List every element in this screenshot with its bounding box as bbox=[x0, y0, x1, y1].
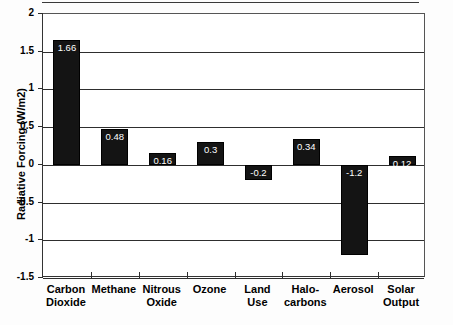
y-tick-mark bbox=[38, 239, 43, 240]
y-tick-label: 0 bbox=[4, 159, 34, 169]
x-axis-category-labels: CarbonDioxideMethaneNitrousOxideOzoneLan… bbox=[42, 283, 425, 323]
y-tick-mark bbox=[38, 202, 43, 203]
y-tick-mark bbox=[38, 277, 43, 278]
y-tick-mark bbox=[38, 13, 43, 14]
x-axis-category-label-line: Oxide bbox=[138, 296, 186, 309]
x-axis-category-label-line: Nitrous bbox=[138, 283, 186, 296]
x-axis-category-label-line: Dioxide bbox=[42, 296, 90, 309]
y-tick-label: 1 bbox=[4, 83, 34, 93]
y-tick-label: -0.5 bbox=[4, 197, 34, 207]
x-axis-category-label: Aerosol bbox=[329, 283, 377, 296]
x-axis-category-label-line: Carbon bbox=[42, 283, 90, 296]
y-tick-mark bbox=[38, 51, 43, 52]
y-tick-label: -1.5 bbox=[4, 272, 34, 282]
radiative-forcing-bar-chart: Radiative Forcing (W/m2) 1.660.480.160.3… bbox=[0, 0, 453, 325]
x-axis-category-label-line: Land bbox=[234, 283, 282, 296]
x-axis-category-label: SolarOutput bbox=[377, 283, 425, 309]
x-axis-category-label-line: Output bbox=[377, 296, 425, 309]
x-axis-category-label-line: Ozone bbox=[186, 283, 234, 296]
x-axis-category-label: CarbonDioxide bbox=[42, 283, 90, 309]
y-tick-label: -1 bbox=[4, 234, 34, 244]
x-axis-category-label: NitrousOxide bbox=[138, 283, 186, 309]
y-axis-ticks: 21.510.50-0.5-1-1.5 bbox=[0, 0, 453, 325]
x-axis-category-label-line: Halo- bbox=[281, 283, 329, 296]
y-tick-mark bbox=[38, 164, 43, 165]
x-axis-category-label-line: carbons bbox=[281, 296, 329, 309]
y-tick-label: 0.5 bbox=[4, 121, 34, 131]
y-tick-mark bbox=[38, 88, 43, 89]
x-axis-category-label-line: Solar bbox=[377, 283, 425, 296]
x-axis-category-label: Ozone bbox=[186, 283, 234, 296]
x-axis-category-label-line: Aerosol bbox=[329, 283, 377, 296]
y-tick-label: 1.5 bbox=[4, 46, 34, 56]
y-tick-mark bbox=[38, 126, 43, 127]
x-axis-category-label: LandUse bbox=[234, 283, 282, 309]
x-axis-category-label: Methane bbox=[90, 283, 138, 296]
x-axis-category-label: Halo-carbons bbox=[281, 283, 329, 309]
y-tick-label: 2 bbox=[4, 8, 34, 18]
x-axis-category-label-line: Use bbox=[234, 296, 282, 309]
x-axis-category-label-line: Methane bbox=[90, 283, 138, 296]
